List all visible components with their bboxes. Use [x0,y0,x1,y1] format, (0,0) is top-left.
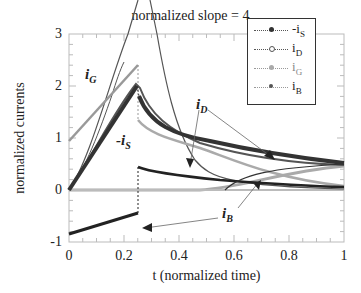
legend-item-id: iD [254,42,314,60]
xtick-0: 0 [49,248,89,264]
xtick-1: 1 [324,248,361,264]
filled-dot-icon [269,27,274,32]
open-circle-icon [269,46,275,52]
legend-item-is: -iS [254,23,314,41]
xtick-0.6: 0.6 [214,248,254,264]
small-dot-icon [269,84,273,88]
ytick-0: 0 [42,182,62,198]
legend-item-ib: iB [254,80,314,98]
annotation-is: -iS [116,132,131,151]
series-ib [69,213,138,234]
annotation-ib: iB [222,205,233,224]
grey-dot-icon [269,65,274,70]
y-axis-label: normalized currents [12,78,28,198]
x-axis-label: t (normalized time) [69,268,344,284]
xtick-0.8: 0.8 [269,248,309,264]
ytick-1: 1 [42,130,62,146]
legend: -iS iD iG iB [247,18,316,105]
ytick-3: 3 [42,26,62,42]
xtick-0.2: 0.2 [104,248,144,264]
legend-item-ig: iG [254,61,314,79]
annotation-ig: iG [85,66,96,85]
xtick-0.4: 0.4 [159,248,199,264]
annotation-id: iD [196,96,207,115]
ytick-2: 2 [42,78,62,94]
